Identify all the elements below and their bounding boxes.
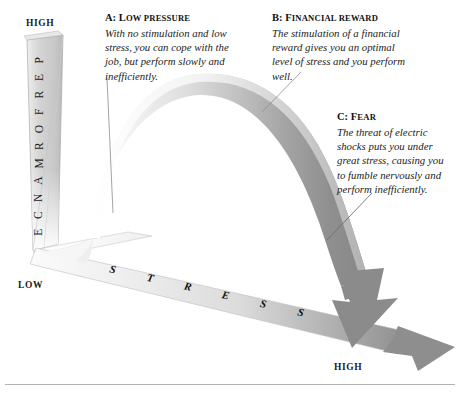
stress-performance-figure: PERFORMANCE STRESS xyxy=(0,0,460,401)
performance-letter: E xyxy=(33,73,45,81)
annotation-b-title: FINANCIAL REWARD xyxy=(285,13,378,23)
annotation-b-body: The stimulation of a financial reward gi… xyxy=(272,26,412,83)
annotation-a: A: LOW PRESSURE With no stimulation and … xyxy=(105,11,235,83)
annotation-b-marker: B: xyxy=(272,12,283,23)
performance-high-label: HIGH xyxy=(26,18,54,28)
annotation-c-title: FEAR xyxy=(351,112,376,122)
performance-letter: F xyxy=(33,108,45,115)
annotation-a-title: LOW PRESSURE xyxy=(119,13,191,23)
annotation-b-heading: B: FINANCIAL REWARD xyxy=(272,11,412,25)
performance-letter: M xyxy=(33,158,45,169)
performance-letter: O xyxy=(33,124,45,133)
performance-letter: A xyxy=(33,176,45,185)
annotation-b: B: FINANCIAL REWARD The stimulation of a… xyxy=(272,11,412,83)
footer-rule xyxy=(5,384,455,385)
performance-letter: E xyxy=(32,228,44,236)
performance-letter: P xyxy=(33,57,45,64)
annotation-c-body: The threat of electric shocks puts you u… xyxy=(337,125,447,196)
stress-high-label: HIGH xyxy=(334,362,362,372)
performance-letter: R xyxy=(33,90,45,98)
annotation-c-heading: C: FEAR xyxy=(337,110,447,124)
performance-axis-bar: PERFORMANCE xyxy=(24,31,63,258)
performance-letter: C xyxy=(32,211,44,219)
annotation-c-marker: C: xyxy=(337,111,348,122)
performance-letter: R xyxy=(33,142,45,150)
annotation-a-marker: A: xyxy=(105,12,116,23)
performance-low-label: LOW xyxy=(18,280,43,290)
leader-line-a xyxy=(107,78,113,213)
stress-axis-ribbon: STRESS xyxy=(30,248,455,371)
performance-letter: N xyxy=(32,193,44,202)
annotation-a-body: With no stimulation and low stress, you … xyxy=(105,26,235,83)
annotation-c: C: FEAR The threat of electric shocks pu… xyxy=(337,110,447,196)
annotation-a-heading: A: LOW PRESSURE xyxy=(105,11,235,25)
